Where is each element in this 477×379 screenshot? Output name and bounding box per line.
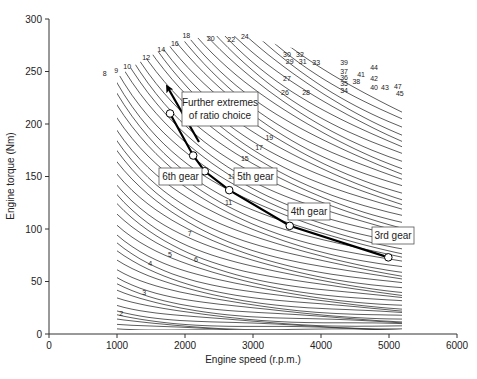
gear3-label: 3rd gear xyxy=(372,227,414,244)
x-axis-title: Engine speed (r.p.m.) xyxy=(205,354,301,365)
contour-label: 38 xyxy=(352,78,360,85)
contour-label: 34 xyxy=(340,87,348,94)
contour-label: 47 xyxy=(394,83,402,90)
contour-label: 39 xyxy=(340,59,348,66)
contour-label: 18 xyxy=(182,32,190,39)
contour-label: 31 xyxy=(299,58,307,65)
contour-label: 3 xyxy=(142,289,146,296)
x-tick-label: 0 xyxy=(46,340,52,351)
contour-label: 14 xyxy=(157,46,165,53)
contour-label: 33 xyxy=(312,59,320,66)
contour-line xyxy=(100,0,420,220)
contour-label: 11 xyxy=(225,199,232,206)
contour-label: 24 xyxy=(241,33,249,40)
x-tick-label: 4000 xyxy=(310,340,333,351)
contour-label: 32 xyxy=(296,51,304,58)
gear-point-marker xyxy=(286,222,294,230)
contour-label: 9 xyxy=(114,67,118,74)
contour-label: 19 xyxy=(265,134,273,141)
y-tick-label: 250 xyxy=(25,66,42,77)
contour-label: 45 xyxy=(396,90,404,97)
gear6-text: 6th gear xyxy=(162,171,199,182)
y-tick-label: 200 xyxy=(25,119,42,130)
contour-label: 15 xyxy=(241,155,249,162)
y-tick-label: 50 xyxy=(31,276,43,287)
contour-label: 41 xyxy=(357,71,365,78)
contour-label: 8 xyxy=(103,70,107,77)
y-tick-label: 100 xyxy=(25,224,42,235)
gear5-label: 5th gear xyxy=(234,168,277,185)
contour-label: 44 xyxy=(370,64,378,71)
contour-label: 12 xyxy=(142,54,150,61)
gear-point-marker xyxy=(166,110,174,118)
contour-label: 36 xyxy=(340,74,348,81)
x-tick-label: 6000 xyxy=(446,340,469,351)
gear-point-marker xyxy=(189,152,197,160)
contour-line xyxy=(100,274,420,323)
further-extremes-line2: of ratio choice xyxy=(189,110,252,121)
gear3-text: 3rd gear xyxy=(374,230,412,241)
gear-point-marker xyxy=(225,186,233,194)
y-tick-label: 300 xyxy=(25,14,42,25)
contour-label: 6 xyxy=(194,256,198,263)
contour-label: 26 xyxy=(281,89,289,96)
further-extremes-line1: Further extremes xyxy=(182,97,258,108)
contour-label: 22 xyxy=(227,36,235,43)
contour-label: 35 xyxy=(340,80,348,87)
y-tick-label: 0 xyxy=(36,329,42,340)
x-tick-label: 1000 xyxy=(106,340,129,351)
contour-label: 4 xyxy=(148,260,152,267)
contour-label: 42 xyxy=(370,75,378,82)
contour-label: 43 xyxy=(381,84,389,91)
contour-label: 2 xyxy=(119,310,123,317)
x-tick-label: 2000 xyxy=(174,340,197,351)
engine-map-chart: 2345678910111213141516171819202224262728… xyxy=(0,0,477,379)
contour-label: 30 xyxy=(283,51,291,58)
y-axis: 050100150200250300 Engine torque (Nm) xyxy=(5,14,49,340)
further-extremes-annotation: Further extremes of ratio choice xyxy=(182,92,258,126)
gear-point-marker xyxy=(385,254,393,262)
contour-line xyxy=(100,9,420,236)
contour-label: 10 xyxy=(123,63,131,70)
contour-label: 37 xyxy=(340,68,348,75)
contour-label: 20 xyxy=(207,35,215,42)
gear5-text: 5th gear xyxy=(237,171,274,182)
contour-lines xyxy=(100,0,420,334)
gear4-text: 4th gear xyxy=(291,206,328,217)
contour-line xyxy=(100,323,420,332)
contour-line xyxy=(100,327,420,333)
x-axis: 0100020003000400050006000 Engine speed (… xyxy=(46,334,468,365)
gear6-label: 6th gear xyxy=(159,168,202,185)
x-tick-label: 5000 xyxy=(378,340,401,351)
contour-line xyxy=(100,0,420,127)
contour-label: 40 xyxy=(370,84,378,91)
y-axis-title: Engine torque (Nm) xyxy=(5,132,16,219)
contour-label: 28 xyxy=(302,89,310,96)
y-tick-label: 150 xyxy=(25,171,42,182)
contour-label: 27 xyxy=(283,75,291,82)
contour-label: 17 xyxy=(255,144,263,151)
gear4-label: 4th gear xyxy=(288,203,330,220)
x-tick-label: 3000 xyxy=(242,340,265,351)
contour-label: 29 xyxy=(286,58,294,65)
contour-label: 16 xyxy=(171,40,179,47)
contour-label: 5 xyxy=(168,251,172,258)
contour-label: 7 xyxy=(188,230,192,237)
